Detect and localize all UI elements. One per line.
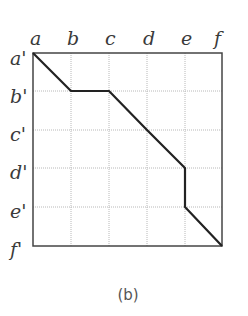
col-label-f: f [212,27,224,49]
row-label-f-prime: f' [8,238,22,260]
warping-path [33,53,222,246]
row-label-c-prime: c' [10,123,26,145]
row-label-a-prime: a' [10,47,27,69]
col-label-b: b [67,27,79,49]
alignment-grid-diagram: a b c d e f a' b' c' d' e' f' (b) [0,0,248,316]
col-label-e: e [181,27,192,49]
col-label-a: a [30,27,41,49]
row-label-d-prime: d' [10,161,27,183]
col-label-d: d [143,27,155,49]
row-label-b-prime: b' [10,85,27,107]
col-label-c: c [105,27,116,49]
row-label-e-prime: e' [10,200,26,222]
column-labels: a b c d e f [30,27,224,49]
row-labels: a' b' c' d' e' f' [8,47,27,260]
figure-caption: (b) [117,286,138,304]
